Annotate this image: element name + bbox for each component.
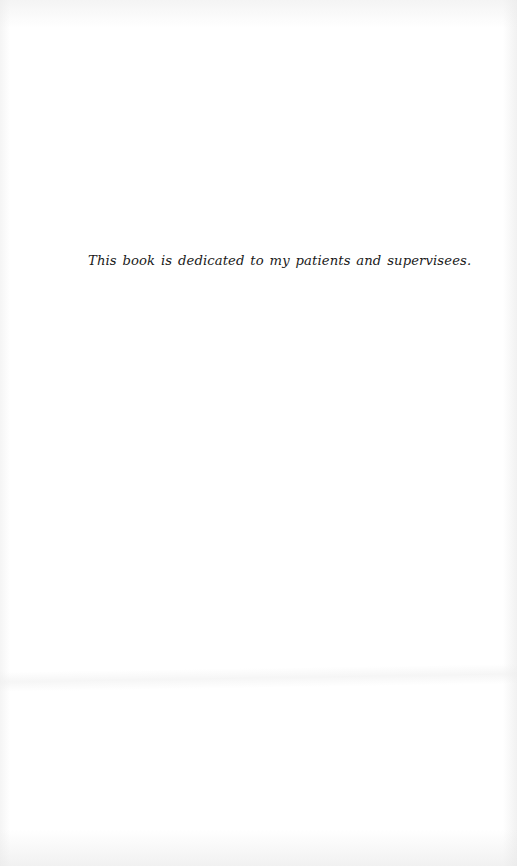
book-page: This book is dedicated to my patients an… — [0, 0, 517, 866]
page-fold-shadow — [0, 664, 517, 692]
dedication-text: This book is dedicated to my patients an… — [88, 253, 471, 268]
